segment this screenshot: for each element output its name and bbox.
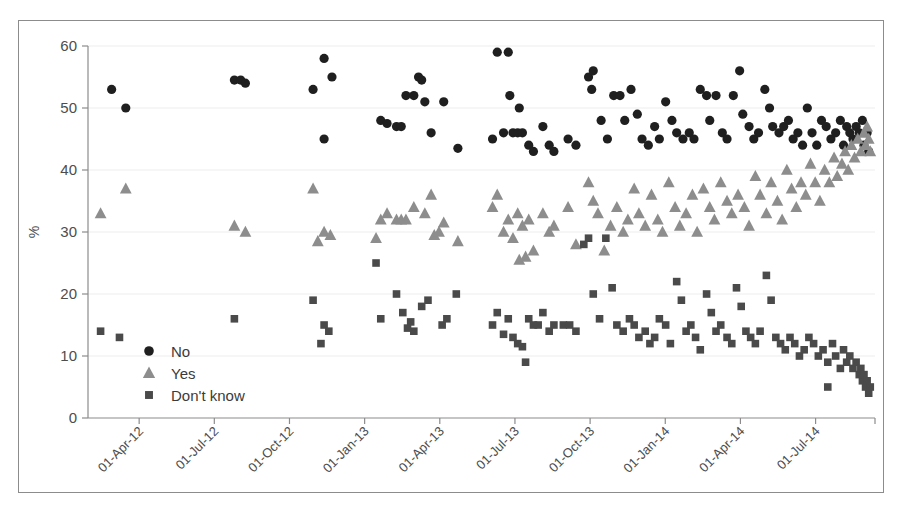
data-point	[805, 158, 817, 169]
legend-label: Yes	[171, 365, 195, 382]
data-point	[717, 321, 725, 329]
data-point	[538, 122, 547, 131]
data-point	[765, 103, 774, 112]
data-point	[116, 334, 124, 342]
data-point	[419, 207, 431, 218]
x-tick-label: 01-Apr-13	[395, 424, 446, 475]
legend-label: No	[171, 343, 190, 360]
data-point	[667, 116, 676, 125]
data-point	[231, 315, 239, 323]
data-point	[424, 296, 432, 304]
data-point	[784, 116, 793, 125]
data-point	[550, 321, 558, 329]
data-point	[652, 213, 664, 224]
data-point	[596, 315, 604, 323]
data-point	[626, 85, 635, 94]
data-point	[738, 110, 747, 119]
data-point	[504, 48, 513, 57]
data-point	[678, 296, 686, 304]
data-point	[819, 346, 827, 354]
data-point	[680, 207, 692, 218]
data-point	[615, 91, 624, 100]
data-point	[611, 201, 623, 212]
data-point	[120, 182, 132, 193]
data-point	[763, 272, 771, 280]
data-point	[504, 315, 512, 323]
data-point	[749, 170, 761, 181]
data-point	[743, 220, 755, 231]
data-point	[500, 331, 508, 339]
data-point	[728, 340, 736, 348]
data-point	[408, 201, 420, 212]
data-point	[562, 201, 574, 212]
data-point	[738, 201, 750, 212]
data-point	[633, 207, 645, 218]
data-point	[708, 309, 716, 317]
data-point	[800, 346, 808, 354]
data-point	[325, 327, 333, 335]
data-point	[438, 216, 450, 227]
data-point	[737, 303, 745, 311]
data-point	[452, 235, 464, 246]
data-point	[795, 176, 807, 187]
data-point	[572, 327, 580, 335]
data-point	[657, 226, 669, 237]
data-point	[453, 290, 461, 298]
data-point	[641, 327, 649, 335]
data-point	[831, 128, 840, 137]
data-point	[397, 122, 406, 131]
data-point	[528, 244, 540, 255]
data-point	[522, 358, 530, 366]
data-point	[705, 116, 714, 125]
data-point	[620, 116, 629, 125]
data-point	[687, 189, 699, 200]
legend-marker-circle	[144, 346, 154, 356]
data-point	[661, 97, 670, 106]
data-point	[798, 141, 807, 150]
data-point	[809, 176, 821, 187]
data-point	[608, 284, 616, 292]
y-tick-label: 40	[60, 161, 77, 178]
data-point	[630, 321, 638, 329]
data-point	[241, 79, 250, 88]
data-point	[505, 91, 514, 100]
data-point	[673, 278, 681, 286]
data-point	[800, 189, 812, 200]
data-point	[487, 201, 499, 212]
data-point	[327, 72, 336, 81]
data-point	[790, 201, 802, 212]
data-point	[502, 213, 514, 224]
data-point	[605, 220, 617, 231]
data-point	[309, 296, 317, 304]
data-point	[488, 134, 497, 143]
data-point	[732, 189, 744, 200]
data-point	[650, 122, 659, 131]
data-point	[617, 226, 629, 237]
y-axis: 0102030405060	[60, 37, 88, 426]
data-point	[603, 134, 612, 143]
data-point	[807, 128, 816, 137]
data-point	[733, 284, 741, 292]
series-no	[107, 48, 873, 156]
data-point	[744, 122, 753, 131]
data-point	[721, 195, 733, 206]
data-point	[703, 290, 711, 298]
data-point	[760, 207, 772, 218]
data-point	[420, 97, 429, 106]
data-point	[667, 340, 675, 348]
data-point	[393, 290, 401, 298]
data-point	[585, 234, 593, 242]
data-point	[814, 195, 826, 206]
data-point	[824, 383, 832, 391]
data-point	[507, 232, 519, 243]
data-point	[760, 85, 769, 94]
x-tick-label: 01-Jul-12	[173, 424, 222, 473]
data-point	[443, 315, 451, 323]
data-point	[534, 321, 542, 329]
data-point	[427, 128, 436, 137]
data-point	[498, 226, 510, 237]
data-point	[767, 296, 775, 304]
y-tick-label: 20	[60, 285, 77, 302]
data-point	[702, 91, 711, 100]
data-point	[791, 340, 799, 348]
